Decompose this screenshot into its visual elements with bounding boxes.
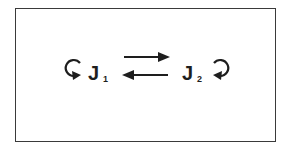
node-j2-subscript: 2 — [197, 74, 202, 84]
self-loop-j1-icon — [66, 60, 81, 80]
arrow-j1-to-j2-icon — [124, 52, 170, 62]
node-j2-label: J — [182, 62, 193, 84]
node-j2: J 2 — [182, 62, 202, 84]
node-j1: J 1 — [88, 62, 108, 84]
arrow-j2-to-j1-icon — [122, 70, 168, 80]
node-j1-label: J — [88, 62, 99, 84]
node-j1-subscript: 1 — [103, 74, 108, 84]
diagram-canvas: J 1 J 2 — [0, 0, 287, 150]
self-loop-j2-icon — [213, 60, 228, 80]
